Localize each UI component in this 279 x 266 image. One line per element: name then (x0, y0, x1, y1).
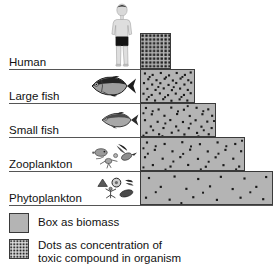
biomagnification-diagram: Human Large fish Small fish Zooplankton … (0, 0, 279, 266)
legend-label-biomass: Box as biomass (38, 216, 119, 229)
bar-small-fish (140, 103, 216, 137)
dots-zooplankton (141, 138, 244, 171)
tier-label-large-fish: Large fish (9, 90, 60, 102)
phytoplankton-icon (97, 176, 141, 202)
dots-large-fish (141, 70, 194, 103)
bar-zooplankton (140, 137, 245, 171)
box-biomass-swatch (9, 213, 29, 233)
tier-label-small-fish: Small fish (9, 124, 59, 136)
tier-label-zooplankton: Zooplankton (9, 158, 72, 170)
legend-label-toxin: Dots as concentration of toxic compound … (38, 239, 181, 265)
separator-phytoplankton (9, 205, 273, 206)
bar-phytoplankton (140, 171, 273, 205)
dots-human (141, 34, 170, 68)
dots-toxin-swatch (9, 239, 29, 259)
human-figure-icon (107, 2, 137, 67)
dots-phytoplankton (141, 172, 272, 205)
bar-large-fish (140, 69, 195, 103)
tier-label-human: Human (9, 56, 46, 68)
legend-item-toxin: Dots as concentration of toxic compound … (9, 239, 181, 265)
bar-human (140, 33, 171, 69)
dots-small-fish (141, 104, 215, 137)
large-fish-icon (80, 73, 137, 99)
zooplankton-icon (92, 142, 140, 169)
dots-toxin-swatch-pattern (10, 240, 28, 258)
tier-label-phytoplankton: Phytoplankton (9, 192, 82, 204)
legend-item-biomass: Box as biomass (9, 213, 119, 233)
small-fish-icon (95, 109, 139, 131)
